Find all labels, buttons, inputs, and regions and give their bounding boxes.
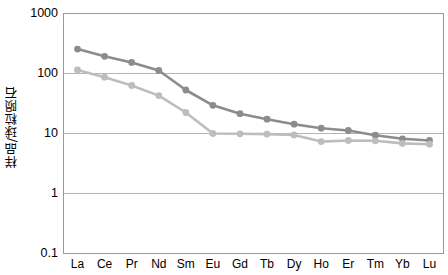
data-point [237,130,244,137]
data-point [399,140,406,147]
data-point [74,67,81,74]
data-point [345,127,352,134]
x-tick-nd: Nd [151,258,166,270]
data-point [291,132,298,139]
x-tick-tm: Tm [367,258,384,270]
data-point [372,137,379,144]
data-point [155,92,162,99]
data-point [318,125,325,132]
x-tick-pr: Pr [126,258,138,270]
x-tick-ce: Ce [97,258,112,270]
data-point [101,74,108,81]
series-layer [74,46,433,148]
data-point [74,46,81,53]
data-point [210,102,217,109]
data-point [155,67,162,74]
data-point [210,130,217,137]
x-tick-sm: Sm [177,258,195,270]
x-tick-eu: Eu [206,258,221,270]
plot-area [0,0,448,275]
x-tick-yb: Yb [395,258,410,270]
x-tick-tb: Tb [260,258,274,270]
data-point [318,138,325,145]
x-tick-gd: Gd [232,258,248,270]
data-point [291,121,298,128]
data-point [128,82,135,89]
data-point [264,131,271,138]
x-tick-dy: Dy [287,258,302,270]
data-point [426,141,433,148]
x-tick-ho: Ho [314,258,329,270]
x-tick-er: Er [342,258,354,270]
data-point [345,137,352,144]
data-point [101,53,108,60]
data-point [264,116,271,123]
ree-spider-chart: 样品/球粒陨石 1000 100 10 1 0.1 LaCePrNdSmEuGd… [0,0,448,275]
data-point [128,59,135,66]
x-tick-la: La [71,258,84,270]
x-tick-lu: Lu [423,258,436,270]
data-series [74,46,433,144]
data-point [237,110,244,117]
data-point [182,109,189,116]
data-point [182,87,189,94]
